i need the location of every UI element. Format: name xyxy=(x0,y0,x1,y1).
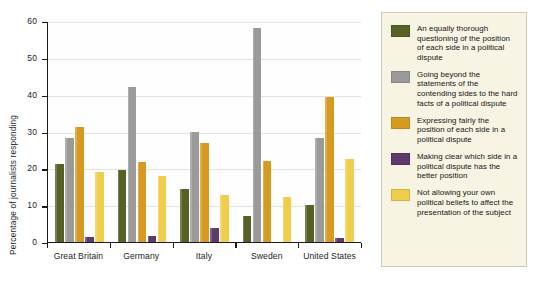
y-axis-tick-label: 30 xyxy=(11,127,37,137)
y-axis-tick-label: 60 xyxy=(11,16,37,26)
bar xyxy=(345,159,354,242)
bar xyxy=(95,172,104,242)
legend-item-label: Going beyond the statements of the conte… xyxy=(417,70,518,108)
bar xyxy=(283,197,292,242)
x-axis-tick-mark xyxy=(173,243,174,248)
legend-swatch-pale-yellow xyxy=(391,189,410,201)
legend-item: An equally thorough questioning of the p… xyxy=(391,24,518,62)
y-axis-tick-label: 40 xyxy=(11,90,37,100)
x-axis-tick-label: Germany xyxy=(110,251,173,267)
x-axis-tick-mark xyxy=(110,243,111,248)
x-axis-tick-mark xyxy=(47,243,48,248)
bar xyxy=(263,161,272,242)
bar xyxy=(180,189,189,242)
bar xyxy=(158,176,167,242)
x-axis-ticks xyxy=(47,243,361,249)
x-axis-tick-mark xyxy=(361,243,362,248)
bar xyxy=(190,132,199,243)
bar xyxy=(253,28,262,242)
bar-group xyxy=(173,22,236,242)
bar xyxy=(210,228,219,242)
bar xyxy=(220,195,229,242)
x-axis-tick-mark xyxy=(235,243,236,248)
bar xyxy=(305,205,314,242)
legend-item: Going beyond the statements of the conte… xyxy=(391,70,518,108)
legend-item-label: An equally thorough questioning of the p… xyxy=(417,24,518,62)
legend-item-label: Expressing fairly the position of each s… xyxy=(417,116,518,145)
chart-legend: An equally thorough questioning of the p… xyxy=(381,12,527,267)
x-axis-tick-label: United States xyxy=(298,251,361,267)
x-axis-labels: Great BritainGermanyItalySwedenUnited St… xyxy=(47,251,361,267)
bar-group xyxy=(111,22,174,242)
legend-swatch-purple xyxy=(391,153,410,165)
legend-swatch-gold xyxy=(391,117,410,129)
legend-item-label: Not allowing your own political beliefs … xyxy=(417,188,518,217)
bar-group xyxy=(236,22,299,242)
bar xyxy=(128,87,137,242)
bar xyxy=(65,138,74,242)
bar-group xyxy=(48,22,111,242)
x-axis-tick-label: Sweden xyxy=(235,251,298,267)
legend-item-label: Making clear which side in a political d… xyxy=(417,152,518,181)
legend-swatch-gray xyxy=(391,71,410,83)
bar xyxy=(335,238,344,242)
bar xyxy=(55,164,64,242)
y-axis-tick-label: 10 xyxy=(11,200,37,210)
bar xyxy=(75,127,84,242)
legend-swatch-dark-olive xyxy=(391,25,410,37)
bar-groups xyxy=(48,22,361,242)
bar xyxy=(243,216,252,242)
x-axis-tick-label: Great Britain xyxy=(47,251,110,267)
bar-group xyxy=(298,22,361,242)
bar xyxy=(118,170,127,242)
bar xyxy=(325,97,334,242)
legend-item: Not allowing your own political beliefs … xyxy=(391,188,518,217)
y-axis-tick-label: 20 xyxy=(11,163,37,173)
x-axis-tick-mark xyxy=(298,243,299,248)
bar xyxy=(315,138,324,242)
y-axis-tick-label: 0 xyxy=(11,237,37,247)
plot-area xyxy=(47,22,361,243)
legend-item: Making clear which side in a political d… xyxy=(391,152,518,181)
y-axis-tick-label: 50 xyxy=(11,53,37,63)
chart-container: Percentage of journalists responding 010… xyxy=(0,0,537,283)
bar xyxy=(148,236,157,242)
bar xyxy=(138,162,147,242)
bar xyxy=(85,237,94,242)
bar xyxy=(200,143,209,242)
legend-item: Expressing fairly the position of each s… xyxy=(391,116,518,145)
x-axis-tick-label: Italy xyxy=(173,251,236,267)
